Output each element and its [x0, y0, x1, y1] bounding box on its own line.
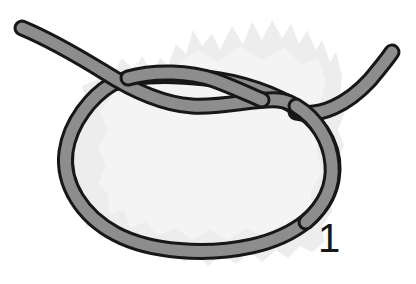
- step-number-label: 1: [318, 216, 340, 260]
- knot-illustration-canvas: 1: [0, 0, 416, 284]
- knot-illustration-figure: 1: [0, 0, 416, 284]
